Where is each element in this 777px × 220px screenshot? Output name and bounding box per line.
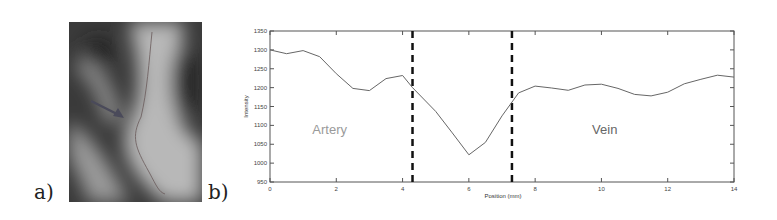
y-tick-label: 1100 [254, 122, 268, 128]
annotation-artery: Artery [312, 122, 347, 137]
intensity-chart: 0246810121495010001050110011501200125013… [0, 0, 777, 220]
y-tick-label: 1350 [254, 28, 268, 34]
y-tick-label: 1000 [254, 160, 268, 166]
y-tick-label: 1250 [254, 66, 268, 72]
x-tick-label: 14 [731, 186, 738, 192]
x-tick-label: 6 [467, 186, 471, 192]
x-tick-label: 12 [664, 186, 671, 192]
x-tick-label: 8 [533, 186, 537, 192]
y-tick-label: 950 [257, 179, 268, 185]
x-tick-label: 10 [598, 186, 605, 192]
annotation-vein: Vein [592, 122, 617, 137]
x-tick-label: 4 [401, 186, 405, 192]
y-tick-label: 1150 [254, 104, 268, 110]
x-tick-label: 0 [268, 186, 272, 192]
y-tick-label: 1200 [254, 85, 268, 91]
y-tick-label: 1300 [254, 47, 268, 53]
x-tick-label: 2 [335, 186, 339, 192]
y-tick-label: 1050 [254, 141, 268, 147]
y-axis-label: Intensity [243, 95, 249, 117]
plot-axes: 0246810121495010001050110011501200125013… [254, 28, 738, 192]
plot-frame [270, 31, 734, 182]
x-axis-label: Position (mm) [484, 193, 521, 199]
